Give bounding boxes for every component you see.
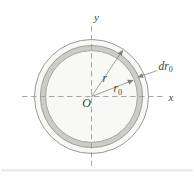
origin-label: O: [82, 96, 91, 110]
annular-ring-diagram: y x O r r0 dr0: [0, 0, 194, 179]
figure-canvas: y x O r r0 dr0: [0, 0, 194, 179]
y-axis-label: y: [93, 11, 99, 23]
x-axis-label: x: [168, 91, 174, 103]
radius-r0-label-subscript: 0: [118, 88, 122, 97]
bottom-rule: [1, 170, 193, 172]
thickness-dr0-label-subscript: 0: [169, 65, 173, 74]
radius-r-label: r: [103, 72, 108, 84]
thickness-dr0-label: dr0: [159, 60, 173, 75]
thickness-dr0-label-base: dr: [159, 60, 170, 72]
